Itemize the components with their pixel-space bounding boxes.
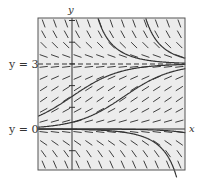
slope-field-figure bbox=[0, 0, 203, 181]
equilibrium-label-y0: y = 0 bbox=[9, 124, 38, 135]
field-background bbox=[38, 18, 185, 170]
y-axis-label-text: y bbox=[68, 4, 74, 15]
x-axis-label-text: x bbox=[189, 123, 195, 134]
y-axis-label: y bbox=[68, 5, 74, 15]
x-axis-label: x bbox=[189, 124, 195, 134]
equilibrium-label-y3: y = 3 bbox=[9, 59, 38, 70]
